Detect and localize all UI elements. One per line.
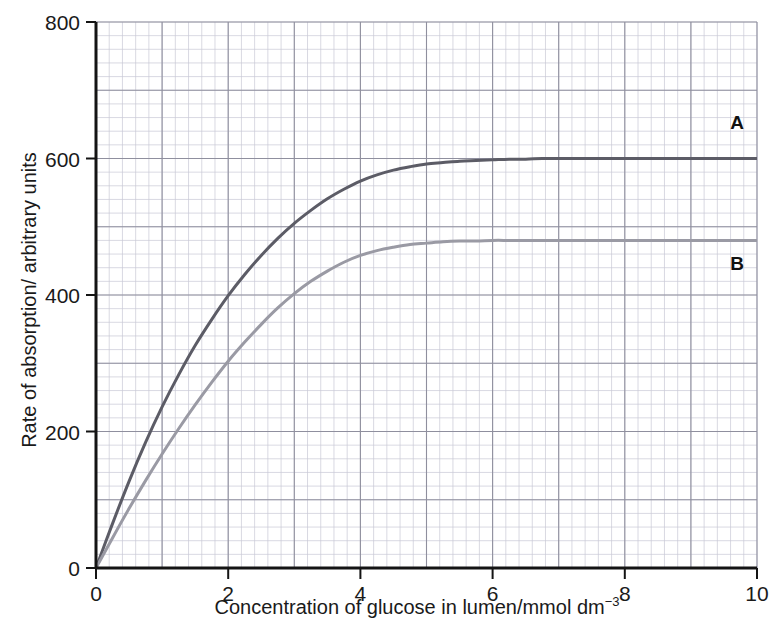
x-tick-label: 10: [745, 582, 768, 605]
y-tick-label: 800: [45, 11, 80, 34]
x-axis-title: Concentration of glucose in lumen/mmol d…: [214, 594, 619, 618]
y-tick-label: 200: [45, 421, 80, 444]
glucose-absorption-chart-figure: 0200400600800 0246810 AB Concentration o…: [0, 0, 775, 627]
curve-label-a: A: [730, 112, 744, 133]
y-tick-label: 0: [68, 557, 80, 580]
chart-svg: 0200400600800 0246810 AB Concentration o…: [0, 0, 775, 627]
y-axis-title: Rate of absorption/ arbitrary units: [18, 152, 40, 448]
x-tick-label: 0: [90, 582, 102, 605]
y-tick-label: 400: [45, 284, 80, 307]
x-tick-label: 8: [619, 582, 631, 605]
y-tick-label: 600: [45, 148, 80, 171]
curve-label-b: B: [730, 253, 744, 274]
